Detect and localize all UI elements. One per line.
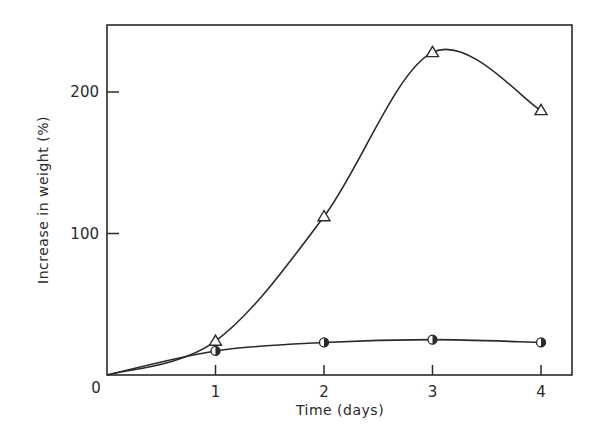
x-axis-title: Time (days) [295,402,384,418]
x-tick-label: 4 [536,383,546,401]
triangle-marker [318,211,330,221]
line-chart: 0100200 1234 Time (days) Increase in wei… [0,0,605,443]
triangle-marker [210,335,222,345]
y-axis-title: Increase in weight (%) [35,116,51,284]
x-axis-ticks: 1234 [211,365,546,401]
x-tick-label: 2 [319,383,329,401]
y-axis-ticks: 0100200 [70,83,119,397]
y-tick-label: 200 [70,83,99,101]
x-tick-label: 1 [211,383,221,401]
triangle-marker [535,104,547,114]
y-tick-label: 100 [70,225,99,243]
series-markers [210,46,548,355]
y-tick-label: 0 [91,379,101,397]
x-tick-label: 3 [428,383,438,401]
